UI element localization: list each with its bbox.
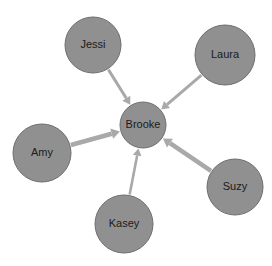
edge-line	[130, 155, 138, 194]
node-circle-amy[interactable]	[13, 124, 71, 182]
edge-line	[71, 134, 112, 145]
graph-node-jessi[interactable]: Jessi	[65, 17, 121, 73]
node-circle-jessi[interactable]	[65, 17, 121, 73]
graph-node-kasey[interactable]: Kasey	[95, 195, 153, 253]
graph-canvas: JessiLauraBrookeAmySuzyKasey	[0, 0, 272, 266]
graph-node-laura[interactable]: Laura	[195, 25, 255, 85]
node-circle-kasey[interactable]	[95, 195, 153, 253]
network-diagram: JessiLauraBrookeAmySuzyKasey	[0, 0, 272, 266]
graph-node-amy[interactable]: Amy	[13, 124, 71, 182]
edge-line	[167, 75, 201, 104]
graph-edge	[108, 70, 130, 105]
graph-edge	[161, 75, 201, 109]
edge-line	[170, 143, 211, 171]
graph-edge	[130, 149, 142, 195]
graph-node-brooke[interactable]: Brooke	[120, 102, 166, 148]
graph-edge	[163, 138, 211, 170]
node-circle-laura[interactable]	[195, 25, 255, 85]
edge-arrowhead-icon	[110, 129, 120, 139]
edge-arrowhead-icon	[133, 149, 142, 157]
graph-edge	[71, 129, 120, 145]
node-circle-suzy[interactable]	[207, 159, 263, 215]
edge-line	[108, 70, 126, 99]
graph-node-suzy[interactable]: Suzy	[207, 159, 263, 215]
nodes-layer: JessiLauraBrookeAmySuzyKasey	[13, 17, 263, 253]
node-circle-brooke[interactable]	[120, 102, 166, 148]
